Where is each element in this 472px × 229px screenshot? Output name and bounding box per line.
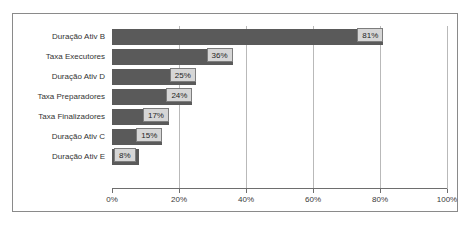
bar-row: Taxa Preparadores24% [112,87,447,107]
bar-value-label: 17% [143,108,169,122]
x-axis-tick-mark [380,189,381,193]
bar-value-label: 8% [114,148,136,162]
category-label: Taxa Preparadores [37,89,112,105]
category-label: Duração Ativ D [52,69,112,85]
bar-value-label: 24% [166,88,192,102]
x-axis-line [112,188,447,189]
x-axis-tick-label: 40% [226,195,266,204]
x-axis-tick-label: 60% [293,195,333,204]
bar-row: Duração Ativ E8% [112,147,447,167]
bar-row: Taxa Finalizadores17% [112,107,447,127]
bar-value-label: 15% [136,128,162,142]
bar-value-label: 25% [170,68,196,82]
x-axis-tick-label: 100% [427,195,467,204]
bar-value-label: 36% [207,48,233,62]
x-axis-tick-mark [112,189,113,193]
plot-area: 0%20%40%60%80%100%Duração Ativ B81%Taxa … [112,26,447,189]
category-label: Taxa Finalizadores [38,109,112,125]
bar-row: Duração Ativ B81% [112,27,447,47]
x-axis-tick-label: 80% [360,195,400,204]
bar [112,29,383,45]
x-axis-tick-label: 0% [92,195,132,204]
bar-row: Duração Ativ C15% [112,127,447,147]
bar-row: Taxa Executores36% [112,47,447,67]
x-axis-tick-mark [447,189,448,193]
x-axis-tick-mark [246,189,247,193]
x-axis-tick-label: 20% [159,195,199,204]
category-label: Duração Ativ C [52,129,112,145]
category-label: Duração Ativ E [52,149,112,165]
bar-row: Duração Ativ D25% [112,67,447,87]
x-axis-tick-mark [179,189,180,193]
x-axis-tick-mark [313,189,314,193]
category-label: Taxa Executores [46,49,112,65]
category-label: Duração Ativ B [52,29,112,45]
bar-value-label: 81% [357,28,383,42]
chart-frame: 0%20%40%60%80%100%Duração Ativ B81%Taxa … [12,13,458,212]
